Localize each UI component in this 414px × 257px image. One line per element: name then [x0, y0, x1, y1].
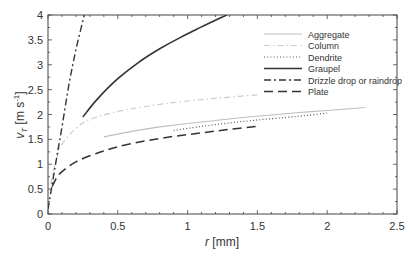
y-tick-label: 2.5 [28, 84, 43, 96]
legend-label: Dendrite [308, 53, 342, 63]
axis-ticks [48, 15, 397, 214]
legend-label: Plate [308, 87, 329, 97]
y-tick-label: 3 [37, 59, 43, 71]
x-tick-label: 1.5 [250, 220, 265, 232]
y-tick-label: 2 [37, 109, 43, 121]
x-tick-label: 1 [185, 220, 191, 232]
x-tick-labels: 00.511.522.5 [45, 220, 405, 232]
x-tick-label: 2.5 [389, 220, 404, 232]
x-tick-label: 0 [45, 220, 51, 232]
legend: AggregateColumnDendriteGraupelDrizzle dr… [264, 30, 402, 98]
y-tick-label: 4 [37, 9, 43, 21]
y-tick-label: 0 [37, 208, 43, 220]
x-tick-label: 0.5 [110, 220, 125, 232]
x-axis-label: r [mm] [205, 235, 239, 249]
y-tick-label: 3.5 [28, 34, 43, 46]
plot-border [48, 15, 397, 214]
series-graupel [83, 15, 227, 117]
y-tick-label: 0.5 [28, 183, 43, 195]
y-axis-label: vT [m s-1] [12, 91, 29, 138]
legend-label: Aggregate [308, 30, 350, 40]
x-tick-label: 2 [324, 220, 330, 232]
y-tick-label: 1 [37, 158, 43, 170]
legend-label: Drizzle drop or raindrop [308, 76, 402, 86]
y-tick-label: 1.5 [28, 133, 43, 145]
series-drizzle-drop-or-raindrop [48, 15, 84, 209]
legend-label: Column [308, 41, 339, 51]
plot-frame [48, 15, 397, 214]
y-tick-labels: 00.511.522.533.54 [28, 9, 43, 220]
series-plate [52, 126, 257, 186]
terminal-velocity-chart: 00.511.522.5 00.511.522.533.54 Aggregate… [0, 0, 414, 257]
legend-label: Graupel [308, 64, 340, 74]
